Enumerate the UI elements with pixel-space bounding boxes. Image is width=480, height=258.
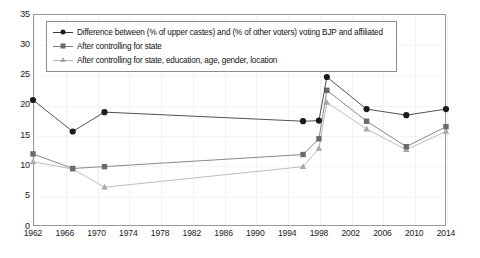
gridline-vertical bbox=[447, 15, 448, 225]
legend-item-label: After controlling for state, education, … bbox=[77, 55, 277, 66]
square-marker-icon bbox=[52, 40, 74, 52]
legend-item-label: After controlling for state bbox=[77, 41, 162, 52]
gridline-vertical bbox=[415, 15, 416, 225]
gridline-horizontal bbox=[34, 136, 445, 137]
x-axis-tick-label: 2014 bbox=[437, 228, 456, 238]
x-axis-tick-label: 1978 bbox=[151, 228, 170, 238]
x-axis-tick-labels: 1962196619701974197819821986199019941998… bbox=[0, 228, 480, 244]
legend-item-state: After controlling for state bbox=[52, 39, 391, 53]
x-axis-tick-label: 1962 bbox=[24, 228, 43, 238]
y-axis-tick-labels: 35302520151050 bbox=[0, 14, 30, 226]
x-axis-tick-label: 2010 bbox=[405, 228, 424, 238]
gridline-vertical bbox=[34, 15, 35, 225]
y-axis-tick-label: 35 bbox=[2, 10, 30, 19]
gridline-horizontal bbox=[34, 197, 445, 198]
x-axis-tick-label: 2002 bbox=[341, 228, 360, 238]
legend-item-full-controls: After controlling for state, education, … bbox=[52, 53, 391, 67]
legend-item-difference: Difference between (% of upper castes) a… bbox=[52, 25, 391, 39]
y-axis-tick-label: 20 bbox=[2, 100, 30, 109]
x-axis-tick-label: 1990 bbox=[246, 228, 265, 238]
chart-legend: Difference between (% of upper castes) a… bbox=[46, 21, 397, 72]
y-axis-tick-label: 5 bbox=[2, 191, 30, 200]
circle-marker-icon bbox=[52, 26, 74, 38]
gridline-horizontal bbox=[34, 166, 445, 167]
y-axis-tick-label: 15 bbox=[2, 131, 30, 140]
x-axis-tick-label: 1966 bbox=[56, 228, 75, 238]
legend-item-label: Difference between (% of upper castes) a… bbox=[77, 27, 383, 38]
y-axis-tick-label: 25 bbox=[2, 70, 30, 79]
y-axis-tick-label: 10 bbox=[2, 161, 30, 170]
line-chart: 35302520151050 1962196619701974197819821… bbox=[0, 0, 480, 258]
x-axis-tick-label: 2006 bbox=[373, 228, 392, 238]
gridline-horizontal bbox=[34, 76, 445, 77]
x-axis-tick-label: 1986 bbox=[214, 228, 233, 238]
x-axis-tick-label: 1998 bbox=[310, 228, 329, 238]
y-axis-tick-label: 30 bbox=[2, 40, 30, 49]
x-axis-tick-label: 1970 bbox=[87, 228, 106, 238]
x-axis-tick-label: 1974 bbox=[119, 228, 138, 238]
x-axis-tick-label: 1982 bbox=[183, 228, 202, 238]
gridline-horizontal bbox=[34, 106, 445, 107]
x-axis-tick-label: 1994 bbox=[278, 228, 297, 238]
triangle-marker-icon bbox=[52, 54, 74, 66]
